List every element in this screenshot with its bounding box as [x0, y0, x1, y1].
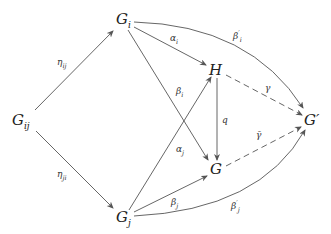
arrow-eta-ij: [35, 31, 113, 110]
label-beta-i: βi: [176, 87, 183, 98]
node-g: G: [210, 162, 222, 177]
arrow-alpha-j: [129, 77, 211, 210]
node-g-prime: G′: [304, 113, 319, 128]
label-beta-j-prime: β′j: [231, 200, 240, 213]
node-h: H: [209, 63, 222, 78]
label-alpha-j: αj: [176, 145, 184, 156]
arrow-eta-ji: [36, 131, 113, 208]
label-eta-ji: ηji: [57, 170, 67, 181]
label-q: q: [222, 116, 228, 125]
label-gamma-bar: γ̄: [256, 131, 261, 140]
arrow-beta-i: [128, 30, 208, 160]
label-beta-j: βj: [171, 198, 178, 209]
arrow-gamma-bar: [226, 127, 301, 166]
arrow-gamma: [226, 75, 302, 115]
commutative-diagram: Gij Gi Gj H G G′ ηij ηji αi βi β′i q γ γ…: [0, 0, 331, 234]
label-beta-i-prime: β′i: [233, 30, 242, 43]
diagram-arrows: [0, 0, 331, 234]
node-g-ij: Gij: [12, 113, 30, 131]
label-eta-ij: ηij: [57, 58, 67, 69]
node-g-j: Gj: [116, 210, 131, 228]
label-gamma: γ: [265, 84, 270, 93]
label-alpha-i: αi: [170, 34, 178, 45]
node-g-i: Gi: [116, 12, 131, 30]
